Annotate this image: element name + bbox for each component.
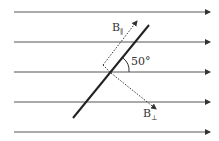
b-parallel-text: B — [112, 21, 120, 34]
diagram-svg — [0, 0, 219, 141]
angle-arc — [123, 58, 129, 72]
angle-label: 50° — [131, 56, 151, 67]
b-parallel-label: B∥ — [112, 22, 123, 36]
b-perp-vector — [111, 73, 156, 109]
b-perp-label: B⊥ — [143, 108, 158, 122]
b-parallel-subscript: ∥ — [120, 28, 123, 36]
b-perp-text: B — [143, 107, 151, 120]
diagram-canvas: 50° B∥ B⊥ — [0, 0, 219, 141]
b-perp-subscript: ⊥ — [151, 114, 158, 122]
